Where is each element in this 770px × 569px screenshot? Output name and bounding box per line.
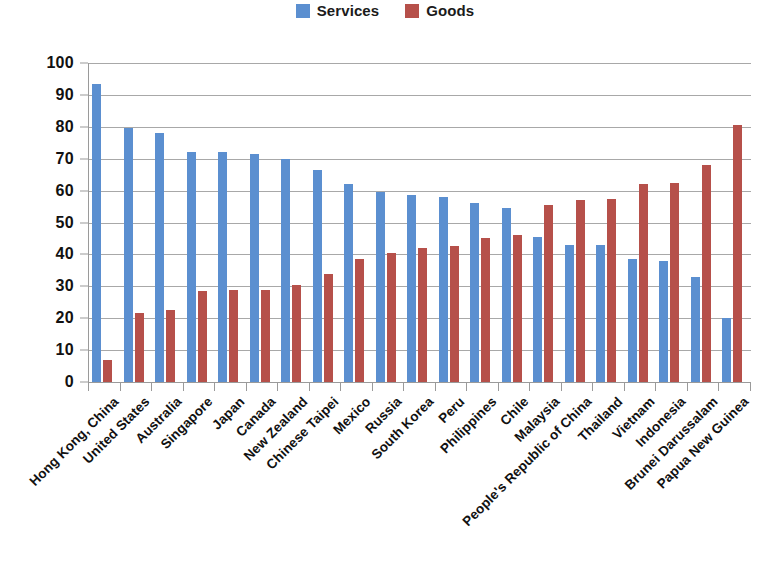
bar-goods	[229, 290, 238, 383]
bar-group	[373, 63, 405, 382]
bar-group	[89, 63, 121, 382]
bar-group	[310, 63, 342, 382]
y-axis-tick-label: 60	[56, 182, 74, 200]
y-axis-tick-mark	[80, 126, 88, 127]
bar-goods	[198, 291, 207, 382]
x-axis-tick-mark	[88, 382, 89, 391]
bar-services	[376, 192, 385, 382]
bar-services	[124, 128, 133, 382]
bar-group	[499, 63, 531, 382]
x-axis-tick-mark	[120, 382, 121, 391]
bar-services	[502, 208, 511, 382]
x-axis-tick-mark	[655, 382, 656, 391]
legend-label-services: Services	[317, 2, 380, 19]
bar-goods	[324, 274, 333, 382]
x-axis-tick-mark	[561, 382, 562, 391]
bar-group	[152, 63, 184, 382]
bar-services	[187, 152, 196, 382]
x-axis-tick-mark	[529, 382, 530, 391]
y-axis-tick-mark	[80, 190, 88, 191]
bar-goods	[387, 253, 396, 382]
bar-group	[530, 63, 562, 382]
y-axis-tick-label: 0	[65, 373, 74, 391]
bar-services	[470, 203, 479, 382]
y-axis-tick-label: 70	[56, 150, 74, 168]
bar-services	[722, 318, 731, 382]
bar-services	[533, 237, 542, 382]
x-axis-tick-mark	[277, 382, 278, 391]
bar-services	[659, 261, 668, 382]
y-axis-tick-mark	[80, 254, 88, 255]
legend-entry-services: Services	[296, 2, 380, 19]
bar-services	[439, 197, 448, 382]
bar-group	[656, 63, 688, 382]
bar-group	[121, 63, 153, 382]
bar-group	[278, 63, 310, 382]
bar-goods	[733, 125, 742, 382]
bar-goods	[450, 246, 459, 382]
y-axis-tick-label: 100	[46, 54, 74, 72]
bar-services	[218, 152, 227, 382]
bar-services	[155, 133, 164, 382]
x-axis-tick-mark	[151, 382, 152, 391]
bar-group	[562, 63, 594, 382]
legend-label-goods: Goods	[426, 2, 474, 19]
legend-swatch-goods-icon	[405, 4, 419, 18]
chart-legend: Services Goods	[0, 2, 770, 19]
y-axis-tick-mark	[80, 158, 88, 159]
bar-services	[691, 277, 700, 382]
bar-goods	[639, 184, 648, 382]
x-axis-tick-mark	[214, 382, 215, 391]
y-axis-tick-mark	[80, 382, 88, 383]
x-axis-tick-mark	[309, 382, 310, 391]
y-axis-tick-label: 80	[56, 118, 74, 136]
bar-group	[467, 63, 499, 382]
bar-goods	[166, 310, 175, 382]
x-axis-tick-mark	[183, 382, 184, 391]
bar-goods	[292, 285, 301, 382]
y-axis: 0102030405060708090100	[0, 0, 88, 569]
x-axis-tick-mark	[403, 382, 404, 391]
x-axis-tick-mark	[624, 382, 625, 391]
y-axis-tick-label: 10	[56, 341, 74, 359]
x-axis-tick-mark	[435, 382, 436, 391]
bar-goods	[670, 183, 679, 382]
bar-services	[92, 84, 101, 382]
x-axis-tick-mark	[340, 382, 341, 391]
bar-group	[625, 63, 657, 382]
bar-group	[404, 63, 436, 382]
bar-goods	[607, 199, 616, 382]
x-axis-tick-mark	[372, 382, 373, 391]
bar-goods	[355, 259, 364, 382]
y-axis-tick-label: 40	[56, 245, 74, 263]
bar-group	[436, 63, 468, 382]
bar-services	[281, 159, 290, 382]
y-axis-tick-label: 90	[56, 86, 74, 104]
bar-services	[344, 184, 353, 382]
bar-services	[596, 245, 605, 382]
bar-goods	[702, 165, 711, 382]
y-axis-tick-label: 20	[56, 309, 74, 327]
bar-services	[565, 245, 574, 382]
bar-group	[184, 63, 216, 382]
x-axis-tick-mark	[498, 382, 499, 391]
x-axis-tick-mark	[718, 382, 719, 391]
y-axis-tick-mark	[80, 318, 88, 319]
y-axis-tick-mark	[80, 63, 88, 64]
bar-services	[313, 170, 322, 382]
bar-goods	[513, 235, 522, 382]
bar-goods	[103, 360, 112, 382]
bar-goods	[481, 238, 490, 382]
bar-group	[593, 63, 625, 382]
legend-entry-goods: Goods	[405, 2, 474, 19]
bar-services	[250, 154, 259, 382]
bar-group	[719, 63, 751, 382]
bar-group	[247, 63, 279, 382]
bar-goods	[544, 205, 553, 382]
y-axis-tick-mark	[80, 350, 88, 351]
bar-chart: Services Goods 0102030405060708090100 Ho…	[0, 0, 770, 569]
x-axis-tick-mark	[687, 382, 688, 391]
bar-goods	[418, 248, 427, 382]
bar-group	[215, 63, 247, 382]
y-axis-tick-mark	[80, 94, 88, 95]
